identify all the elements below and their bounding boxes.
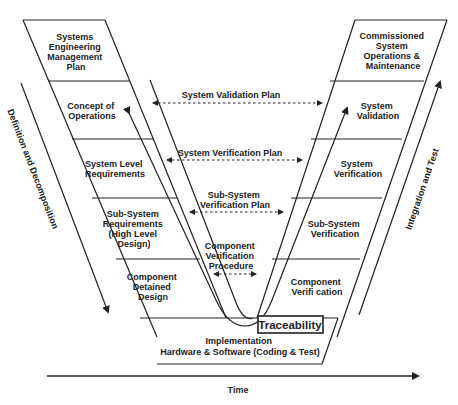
box-sub-system-requirements: Sub-System Requirements (High Level Desi… [103, 209, 166, 249]
box-system-level-requirements: System Level Requirements [85, 159, 145, 179]
traceability-box: Traceability [258, 316, 323, 333]
svg-text:Traceability: Traceability [258, 319, 322, 331]
box-systems-engineering-management-plan: Systems Engineering Management Plan [47, 32, 105, 72]
box-component-verification: Component Verifi cation [291, 277, 344, 297]
box-sub-system-verification: Sub-System Verification [308, 219, 363, 239]
v-model-diagram: Systems Engineering Management Plan Conc… [0, 0, 458, 405]
label-system-verification-plan: System Verification Plan [178, 148, 283, 158]
box-system-verification: System Verification [334, 159, 383, 179]
label-time: Time [228, 385, 249, 395]
label-definition-decomposition: Definition and Decomposition [5, 108, 60, 231]
box-implementation: Implementation Hardware & Software (Codi… [160, 336, 319, 357]
box-commissioned-system-operations: Commissioned System Operations & Mainten… [359, 31, 426, 71]
label-system-validation-plan: System Validation Plan [182, 90, 281, 100]
plan-arrows: System Validation Plan System Verificati… [153, 90, 322, 274]
label-integration-test: Integration and Test [404, 147, 441, 231]
label-sub-system-verification-plan: Sub-System Verification Plan [200, 190, 270, 210]
box-system-validation: System Validation [357, 101, 400, 121]
label-component-verification-procedure: Component Verification Procedure [205, 241, 258, 271]
box-component-detailed-design: Component Detained Design [127, 272, 180, 302]
right-column-labels: Commissioned System Operations & Mainten… [291, 31, 427, 297]
left-column-labels: Systems Engineering Management Plan Conc… [47, 32, 179, 302]
box-concept-of-operations: Concept of Operations [67, 101, 117, 121]
